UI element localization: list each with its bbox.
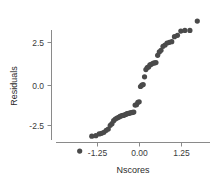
data-point — [141, 82, 146, 87]
y-tick-label--2.5: -2.5 — [29, 121, 44, 131]
data-point — [187, 28, 192, 33]
x-tick-label--1.25: -1.25 — [88, 148, 108, 158]
data-point — [169, 39, 174, 44]
scatter-points — [77, 18, 200, 153]
data-point — [175, 33, 180, 38]
data-point — [182, 28, 187, 33]
data-point — [195, 18, 200, 23]
data-point — [137, 99, 142, 104]
data-point — [131, 109, 136, 114]
x-tick-label-1.25: 1.25 — [173, 148, 190, 158]
data-point — [77, 148, 82, 153]
y-tick-label-0.0: 0.0 — [32, 81, 44, 91]
qq-plot-figure: 2.5 0.0 -2.5 -1.25 0.00 1.25 Nscores Res… — [0, 0, 217, 180]
y-tick-label-2.5: 2.5 — [32, 38, 44, 48]
data-point — [153, 60, 158, 65]
x-axis-title: Nscores — [116, 165, 150, 175]
x-tick-label-0.00: 0.00 — [131, 148, 148, 158]
plot-canvas: 2.5 0.0 -2.5 -1.25 0.00 1.25 Nscores Res… — [0, 0, 217, 180]
data-point — [142, 74, 147, 79]
y-axis-title: Residuals — [9, 66, 19, 106]
